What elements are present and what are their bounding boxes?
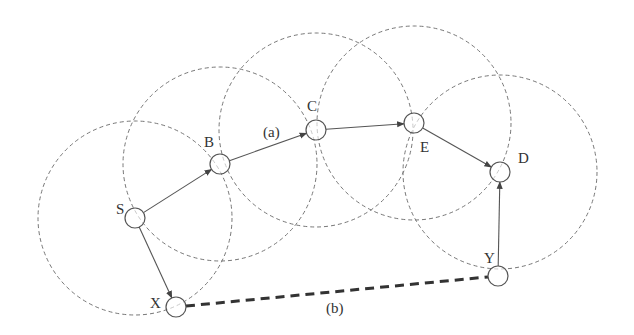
node-label-y: Y (484, 250, 495, 266)
arrow-y-d (498, 182, 500, 266)
node-s (125, 208, 145, 228)
arrow-s-b (143, 169, 211, 212)
arrow-e-d (423, 128, 492, 167)
node-y (488, 266, 508, 286)
node-e (404, 113, 424, 133)
node-label-s: S (116, 201, 124, 217)
node-d (490, 162, 510, 182)
nodes (125, 113, 510, 317)
node-label-d: D (518, 150, 529, 166)
annotation-1: (b) (326, 300, 344, 317)
arrow-s-x (139, 227, 172, 298)
node-label-c: C (307, 98, 317, 114)
node-c (306, 120, 326, 140)
transmission-ranges (38, 26, 597, 315)
node-x (166, 297, 186, 317)
node-label-b: B (204, 134, 214, 150)
annotation-0: (a) (263, 124, 280, 141)
arrow-c-e (326, 124, 404, 130)
network-diagram: SBCEDYX(a)(b) (0, 0, 634, 335)
node-b (210, 154, 230, 174)
node-label-e: E (420, 139, 429, 155)
node-label-x: X (150, 295, 161, 311)
